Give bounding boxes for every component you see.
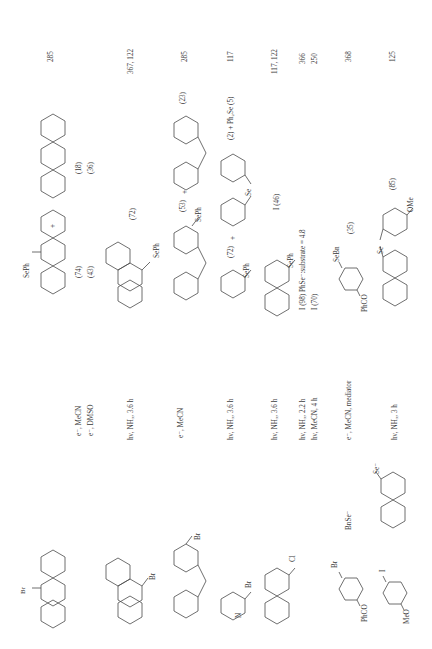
conditions-6b: hν, MeCN, 4 h [312,397,319,440]
ref-5: 117, 122 [272,49,279,74]
product-label-8: Se [378,247,385,254]
nucleophile-2-naphthylselenide [378,470,408,532]
product-label-2: SePh [154,243,161,258]
conditions-6a: hν, NH₃, 2.2 h [300,399,307,440]
product-label-3: SePh [196,207,203,222]
conditions-1a: e⁻, MeCN [76,406,83,436]
nucleophile-label-8: Se⁻ [374,463,381,474]
yield-1b: (43) [88,266,95,278]
conditions-5: hν, NH₃, 3.6 h [272,399,279,440]
yield-2: (72) [130,208,137,220]
ref-4: 117 [228,51,235,62]
yield-4a: (72) [228,246,235,258]
product-9-phenylselenophenanthrene [104,240,154,310]
substrate-label-7: Br [332,561,339,568]
substrate-4-iodoanisole [380,576,410,612]
yield-4b: (2) + Ph₂Se (5) [228,97,235,141]
substrate-9-bromoanthracene: Br [38,548,68,628]
ref-6a: 366 [300,53,307,64]
yield-1c: (18) [76,162,83,174]
conditions-2: hν, NH₃, 3.6 h [128,399,135,440]
product-dipyridyl-selenide [218,152,248,228]
product-sub-7: PhCO [362,294,369,312]
ref-6b: 250 [312,53,319,64]
product-text-6a: I (98) PhSe⁻:substrate = 4.8 [300,229,307,310]
se-label-4: Se [246,189,253,196]
substrate-2-chloroquinoline [262,566,292,626]
product-label-4: SePh [244,263,251,278]
yield-7: (35) [348,222,355,234]
substrate-label-8: I [380,570,387,572]
product-text-6b: I (70) [312,294,319,310]
product-sub-8: OMe [408,197,415,212]
substrate-label-3: Br [195,533,202,540]
product-label-1: SePh [24,263,31,278]
ref-2: 367, 122 [128,49,135,74]
substrate-n-4: N [236,613,243,618]
substrate-2-bromopyridine [218,590,248,622]
substrate-sub-8: MeO [404,609,411,624]
substrate-label-5: Cl [290,555,297,562]
yield-5: I (46) [274,194,281,210]
conditions-1b: e⁻, DMSO [88,405,95,436]
conditions-7: e⁻, MeCN, mediator [346,381,353,440]
yield-3b: (23) [180,92,187,104]
substrate-sub-7: PhCO [362,604,369,622]
ref-3: 285 [182,51,189,62]
product-label-7: SeBn [334,246,341,262]
conditions-8: hν, NH₃, 3 h [392,404,399,440]
substrate-2-bromofluorene [172,540,208,622]
ref-8: 125 [390,51,397,62]
yield-1a: (74) [76,266,83,278]
svg-text:Br: Br [19,586,27,594]
product-9-phenylselenoanthracene [38,208,68,298]
yield-3a: (53) [180,200,187,212]
substrate-label-2: Br [150,573,157,580]
product-2-phenylselenofluorene [172,222,208,304]
product-label-5: SePh [288,253,295,268]
product-4-benzylselenobenzophenone [336,262,366,298]
substrate-label-4: Br [246,581,253,588]
yield-1d: (36) [88,162,95,174]
plus-1: + [50,224,57,228]
substrate-4-bromobenzophenone [336,572,366,608]
plus-4: + [230,236,237,240]
ref-1: 285 [48,51,55,62]
ref-7: 368 [346,51,353,62]
product-fluorene [172,112,208,194]
product-anthracene [38,112,68,202]
yield-8: (85) [390,178,397,190]
conditions-3: e⁻, MeCN [178,408,185,438]
conditions-4: hν, NH₃, 3.6 h [228,399,235,440]
substrate-9-bromophenanthrene [104,556,154,626]
product-naphthyl-anisyl-selenide [380,200,410,310]
nucleophile-7: BnSe⁻ [346,511,353,530]
